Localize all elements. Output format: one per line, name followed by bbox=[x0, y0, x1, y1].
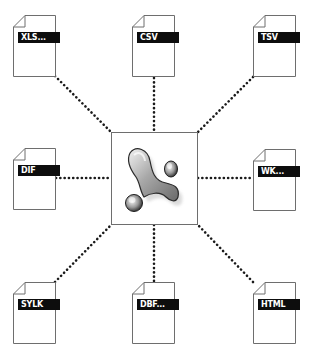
file-format-diagram: XLS... CSV TSV DIF WK... bbox=[0, 0, 311, 349]
format-label-sylk: SYLK bbox=[18, 299, 60, 310]
document-sylk: SYLK bbox=[13, 282, 56, 344]
document-xls: XLS... bbox=[13, 15, 56, 77]
document-icon bbox=[13, 282, 56, 344]
format-label-html: HTML bbox=[258, 299, 300, 310]
document-icon bbox=[13, 148, 56, 210]
document-icon bbox=[132, 282, 175, 344]
format-label-dbf: DBF... bbox=[137, 299, 179, 310]
connector-xls bbox=[55, 76, 111, 132]
document-icon bbox=[13, 15, 56, 77]
document-icon bbox=[253, 149, 296, 211]
document-csv: CSV bbox=[132, 15, 175, 77]
document-html: HTML bbox=[253, 282, 296, 344]
document-icon bbox=[253, 282, 296, 344]
connector-sylk bbox=[55, 225, 111, 282]
document-tsv: TSV bbox=[253, 15, 296, 77]
document-icon bbox=[132, 15, 175, 77]
access-database-icon bbox=[112, 133, 197, 224]
connector-tsv bbox=[198, 77, 253, 132]
format-label-dif: DIF bbox=[18, 165, 60, 176]
center-application-box bbox=[111, 132, 198, 225]
document-icon bbox=[253, 15, 296, 77]
format-label-tsv: TSV bbox=[258, 32, 300, 43]
document-dbf: DBF... bbox=[132, 282, 175, 344]
document-wk: WK... bbox=[253, 149, 296, 211]
format-label-csv: CSV bbox=[137, 32, 179, 43]
format-label-wk: WK... bbox=[258, 166, 300, 177]
format-label-xls: XLS... bbox=[18, 32, 60, 43]
connector-html bbox=[198, 225, 253, 282]
document-dif: DIF bbox=[13, 148, 56, 210]
